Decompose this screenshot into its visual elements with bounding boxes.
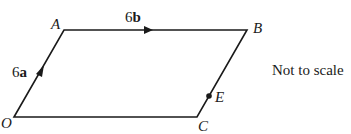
not-to-scale-note: Not to scale (272, 62, 344, 78)
vector-label-ab: 6b (125, 9, 141, 25)
parallelogram-oabc (14, 30, 247, 117)
vertex-label-a: A (50, 16, 61, 32)
vertex-label-o: O (1, 115, 12, 131)
arrow-ab-icon (144, 26, 153, 34)
point-label-e: E (214, 89, 224, 105)
parallelogram-diagram: O A B C E 6a 6b Not to scale (0, 0, 351, 134)
vertex-label-c: C (198, 118, 209, 134)
vector-label-oa: 6a (12, 64, 28, 80)
point-e (206, 93, 212, 99)
vertex-label-b: B (253, 20, 262, 36)
